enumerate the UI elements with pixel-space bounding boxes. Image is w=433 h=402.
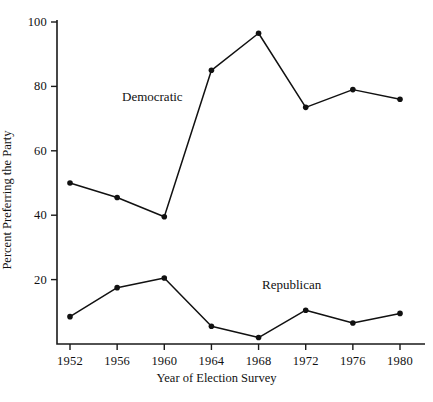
series-label-democratic: Democratic	[122, 89, 183, 105]
x-axis-tick-label: 1980	[387, 354, 413, 369]
y-axis-title: Percent Preferring the Party	[0, 80, 15, 320]
data-point	[397, 96, 403, 102]
data-point	[114, 195, 120, 201]
data-point	[161, 275, 167, 281]
data-point	[209, 68, 215, 74]
y-axis-ticks	[51, 22, 57, 280]
data-point	[67, 314, 73, 320]
axis-lines	[57, 20, 425, 344]
series-label-republican: Republican	[262, 277, 321, 293]
chart-plot-area	[0, 0, 433, 402]
series-republican	[67, 275, 403, 340]
data-point	[114, 285, 120, 291]
data-point	[209, 323, 215, 329]
x-axis-tick-label: 1960	[151, 354, 177, 369]
x-axis-tick-label: 1968	[246, 354, 272, 369]
data-point	[350, 87, 356, 93]
series-democratic	[67, 30, 403, 219]
data-point	[256, 335, 262, 341]
line-chart-figure: 20406080100 1952195619601964196819721976…	[0, 0, 433, 402]
axis-l-shape	[57, 20, 425, 344]
x-axis-title: Year of Election Survey	[0, 371, 433, 386]
x-axis-tick-label: 1964	[199, 354, 225, 369]
data-point	[161, 214, 167, 220]
data-point	[303, 105, 309, 111]
x-axis-tick-label: 1972	[293, 354, 319, 369]
x-axis-tick-label: 1956	[104, 354, 130, 369]
data-series-layer	[67, 30, 403, 340]
data-point	[350, 320, 356, 326]
data-point	[303, 307, 309, 313]
x-axis-ticks	[70, 344, 400, 350]
x-axis-tick-label: 1952	[57, 354, 83, 369]
data-point	[67, 180, 73, 186]
data-point	[397, 311, 403, 317]
x-axis-tick-label: 1976	[340, 354, 366, 369]
y-axis-tick-label: 100	[8, 15, 47, 30]
series-line-democratic	[70, 33, 400, 217]
data-point	[256, 30, 262, 36]
